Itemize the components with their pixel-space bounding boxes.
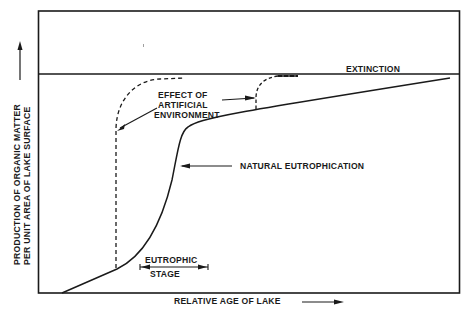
stage-arrowhead-left-icon [141, 265, 150, 270]
y-axis-label-line2: PER UNIT AREA OF LAKE SURFACE [22, 104, 32, 265]
effect-arrow-left [120, 108, 157, 128]
eutrophic-stage-label-line1: EUTROPHIC [145, 256, 197, 265]
effect-label-line2: ARTIFICIAL [158, 101, 208, 110]
effect-label-line1: EFFECT OF [158, 91, 208, 100]
stage-arrowhead-right-icon [198, 265, 207, 270]
effect-arrowhead-left-icon [117, 124, 125, 131]
effect-label-line3: ENVIRONMENT [154, 111, 220, 120]
diagram-graphics [0, 0, 465, 309]
natural-arrowhead-icon [180, 164, 190, 169]
natural-eutrophication-curve [62, 78, 450, 293]
x-axis-label: RELATIVE AGE OF LAKE [174, 297, 281, 306]
y-axis-label-line1: PRODUCTION OF ORGANIC MATTER [12, 104, 22, 265]
y-axis-label: PRODUCTION OF ORGANIC MATTER PER UNIT AR… [12, 104, 32, 265]
eutrophic-stage-label-line2: STAGE [150, 270, 180, 279]
natural-eutrophication-label: NATURAL EUTROPHICATION [240, 162, 364, 171]
extinction-label: EXTINCTION [346, 65, 400, 74]
y-axis-arrowhead-icon [18, 41, 23, 50]
effect-arrowhead-right-icon [245, 96, 256, 101]
plot-frame [39, 11, 460, 293]
x-axis-arrowhead-icon [334, 300, 344, 305]
eutrophication-diagram: EXTINCTION EFFECT OF ARTIFICIAL ENVIRONM… [0, 0, 465, 309]
